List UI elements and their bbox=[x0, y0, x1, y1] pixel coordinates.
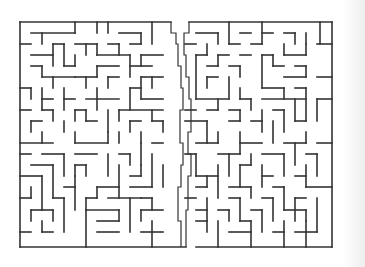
maze-board bbox=[0, 0, 365, 267]
maze-background bbox=[0, 0, 365, 267]
page-edge-shadow bbox=[343, 0, 365, 267]
